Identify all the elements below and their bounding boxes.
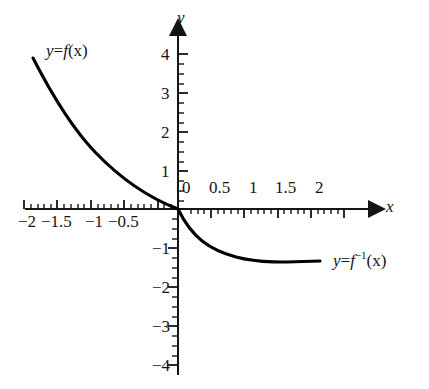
- x-axis-title: x: [386, 198, 394, 215]
- y-axis-title: y: [177, 9, 185, 26]
- y-tick-label-4: 4: [161, 46, 170, 63]
- curve-label-finv-equals: =: [341, 251, 351, 270]
- x-tick-label-0: 0: [182, 179, 191, 196]
- y-tick-label-3: 3: [161, 85, 170, 102]
- curve-label-finv-y: y: [333, 251, 341, 270]
- curve-label-f: y=f(x): [46, 42, 88, 59]
- curve-label-f-arg: (x): [68, 41, 88, 60]
- curve-label-f-y: y: [46, 41, 54, 60]
- y-tick-label-neg4: −4: [152, 357, 170, 374]
- y-tick-label-2: 2: [161, 124, 170, 141]
- curve-label-finv-arg: (x): [367, 251, 387, 270]
- curve-f: [33, 58, 178, 209]
- x-axis-group: [24, 200, 370, 218]
- x-tick-label-neg0p5: −0.5: [108, 213, 139, 230]
- x-tick-label-1: 1: [249, 179, 258, 196]
- curve-label-finv-exponent: −1: [355, 249, 367, 261]
- x-tick-label-2: 2: [315, 179, 324, 196]
- figure-canvas: −2 −1.5 −1 −0.5 0 0.5 1 1.5 2 4 3 2 1 −1…: [0, 0, 429, 389]
- curve-label-f-equals: =: [54, 41, 64, 60]
- x-tick-label-1p5: 1.5: [275, 179, 296, 196]
- y-tick-label-neg3: −3: [152, 318, 170, 335]
- y-tick-label-1: 1: [161, 163, 170, 180]
- x-tick-label-neg2: −2: [18, 213, 36, 230]
- x-tick-label-0p5: 0.5: [209, 179, 230, 196]
- y-tick-label-neg2: −2: [152, 279, 170, 296]
- x-tick-label-neg1: −1: [85, 213, 103, 230]
- y-tick-label-neg1: −1: [152, 240, 170, 257]
- curve-label-f-inverse: y=f−1(x): [333, 250, 386, 269]
- x-tick-label-neg1p5: −1.5: [41, 213, 72, 230]
- curve-f-inverse: [178, 209, 320, 262]
